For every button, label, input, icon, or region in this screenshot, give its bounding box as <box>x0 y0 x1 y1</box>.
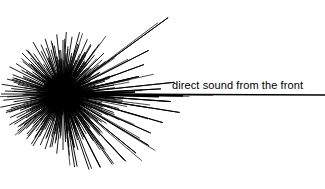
ray <box>50 93 63 94</box>
direct-sound-label: direct sound from the front <box>172 79 303 91</box>
reflectogram-figure <box>0 0 325 189</box>
hedgehog-plot-canvas <box>0 0 325 189</box>
